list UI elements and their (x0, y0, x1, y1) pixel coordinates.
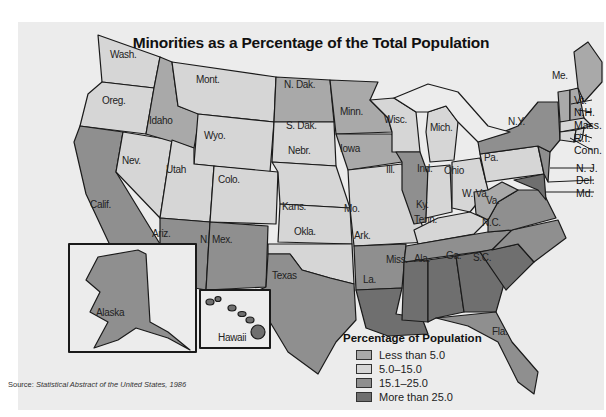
label-ohio: Ohio (444, 165, 464, 176)
label-wisc: Wisc. (384, 114, 407, 125)
legend-item-lt5: Less than 5.0 (356, 348, 482, 362)
source-prefix: Source: (8, 380, 34, 389)
label-la: La. (363, 274, 376, 285)
state-miss (402, 260, 428, 322)
label-nmex: N. Mex. (200, 234, 232, 245)
label-calif: Calif. (90, 199, 111, 210)
label-ndak: N. Dak. (284, 79, 315, 90)
label-miss: Miss. (386, 254, 408, 265)
legend-item-15-25: 15.1–25.0 (356, 376, 482, 390)
label-oreg: Oreg. (102, 95, 126, 106)
label-tenn: Tenn. (414, 214, 437, 225)
label-nj: N. J. (576, 162, 598, 174)
label-mo: Mo. (344, 203, 360, 214)
label-ri: R.I. (574, 132, 590, 144)
label-ga: Ga. (446, 250, 461, 261)
label-ark: Ark. (354, 230, 371, 241)
source-citation: Source: Statistical Abstract of the Unit… (8, 380, 186, 389)
label-kans: Kans. (282, 201, 306, 212)
label-nev: Nev. (122, 155, 141, 166)
label-minn: Minn. (340, 106, 363, 117)
legend-swatch (356, 364, 372, 374)
legend-item-gt25: More than 25.0 (356, 390, 482, 404)
label-sc: S.C. (473, 252, 491, 263)
state-nmex (206, 222, 268, 290)
label-ny: N.Y. (508, 116, 525, 127)
label-fla: Fla. (492, 326, 507, 337)
label-idaho: Idaho (149, 115, 173, 126)
legend-label: 5.0–15.0 (379, 363, 422, 375)
label-va: Va. (486, 195, 499, 206)
label-vt: Vt. (574, 94, 587, 106)
label-ill: Ill. (386, 164, 395, 175)
label-nc: N.C. (482, 217, 501, 228)
state-oreg (80, 82, 154, 134)
label-wyo: Wyo. (204, 130, 226, 141)
label-colo: Colo. (218, 174, 240, 185)
label-okla: Okla. (294, 226, 316, 237)
legend-title: Percentage of Population (343, 332, 482, 344)
label-utah: Utah (166, 164, 186, 175)
label-alaska: Alaska (96, 307, 124, 318)
label-md: Md. (576, 187, 594, 199)
state-wyo (194, 114, 274, 172)
label-iowa: Iowa (340, 143, 360, 154)
source-text: Statistical Abstract of the United State… (36, 380, 186, 389)
label-ind: Ind. (417, 163, 432, 174)
label-ky: Ky. (416, 199, 429, 210)
legend-swatch (356, 350, 372, 360)
label-conn: Conn. (574, 144, 602, 156)
legend: Percentage of Population Less than 5.0 5… (343, 332, 482, 404)
state-ark (354, 244, 406, 290)
label-mass: Mass. (574, 119, 602, 131)
legend-swatch (356, 392, 372, 402)
label-pa: Pa. (484, 152, 498, 163)
label-ariz: Ariz. (152, 228, 171, 239)
legend-label: 15.1–25.0 (379, 377, 428, 389)
state-vt (558, 90, 570, 122)
label-nebr: Nebr. (288, 145, 310, 156)
legend-item-5-15: 5.0–15.0 (356, 362, 482, 376)
label-me: Me. (552, 70, 568, 81)
label-nh: N.H. (574, 106, 595, 118)
label-wva: W. Va. (462, 188, 489, 199)
map-frame: Minorities as a Percentage of the Total … (18, 22, 604, 410)
label-ala: Ala. (414, 253, 430, 264)
map-title: Minorities as a Percentage of the Total … (18, 34, 604, 52)
label-del: Del. (576, 174, 595, 186)
label-hawaii: Hawaii (218, 332, 246, 343)
legend-swatch (356, 378, 372, 388)
label-sdak: S. Dak. (286, 120, 317, 131)
legend-label: More than 25.0 (379, 391, 453, 403)
label-wash: Wash. (110, 49, 136, 60)
label-mont: Mont. (196, 74, 220, 85)
legend-label: Less than 5.0 (379, 349, 445, 361)
label-texas: Texas (272, 270, 297, 281)
label-mich: Mich. (430, 122, 452, 133)
